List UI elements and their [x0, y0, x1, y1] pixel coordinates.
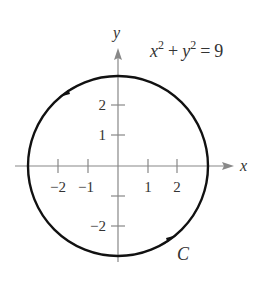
y-tick-label: −2: [90, 218, 106, 234]
curve-label: C: [177, 244, 190, 264]
equation-rhs: 9: [214, 41, 223, 61]
x-tick-label: 1: [144, 179, 152, 195]
y-tick-label: 2: [99, 97, 107, 113]
equation-y: y: [180, 41, 190, 61]
equation-equals: =: [200, 41, 210, 61]
diagram-canvas: −2 −1 1 2 2 1 −2 x y C x2+y2=9: [0, 0, 256, 284]
circle-diagram: −2 −1 1 2 2 1 −2 x y C x2+y2=9: [0, 0, 256, 284]
x-axis-label: x: [239, 157, 247, 174]
equation-x: x: [149, 41, 158, 61]
x-tick-label: 2: [173, 179, 181, 195]
equation-x-exponent: 2: [158, 38, 164, 52]
x-tick-label: −1: [78, 179, 94, 195]
equation-y-exponent: 2: [190, 38, 196, 52]
x-tick-label: −2: [50, 179, 66, 195]
axes: [15, 56, 228, 262]
y-axis-label: y: [111, 24, 121, 42]
equation-plus: +: [168, 41, 178, 61]
equation-label: x2+y2=9: [149, 38, 223, 61]
y-tick-label: 1: [99, 127, 107, 143]
